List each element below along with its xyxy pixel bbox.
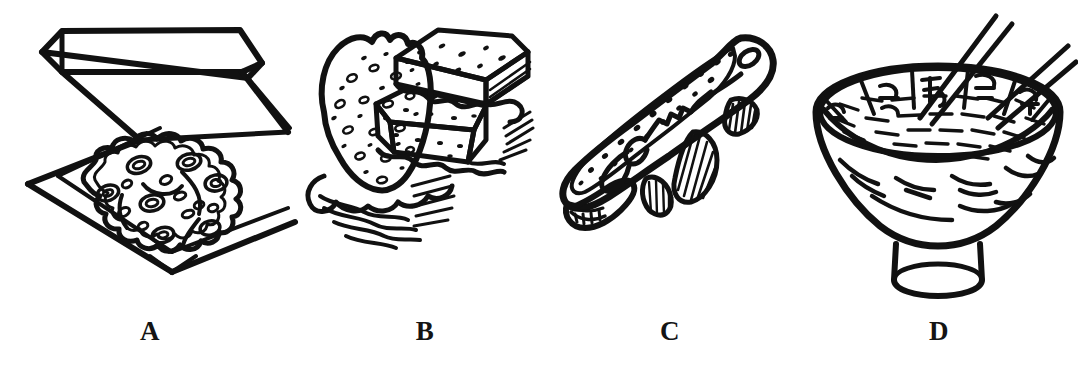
rice-bowl-icon [800, 0, 1078, 300]
fish-icon [545, 0, 795, 300]
panel-label-c: C [545, 318, 795, 345]
figure-canvas: A [0, 0, 1078, 367]
panel-a: A [0, 0, 300, 367]
panel-label-b: B [290, 318, 560, 345]
sandwich-icon [290, 0, 560, 300]
panel-label-d: D [800, 318, 1078, 345]
panel-b: B [290, 0, 560, 367]
panel-label-a: A [0, 318, 300, 345]
panel-d: D [800, 0, 1078, 367]
pizza-box-icon [0, 0, 300, 300]
panel-c: C [545, 0, 795, 367]
